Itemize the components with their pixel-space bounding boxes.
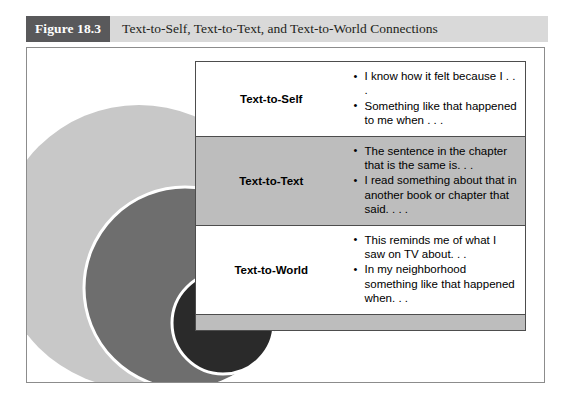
table-row: Text-to-Self I know how it felt because … xyxy=(196,62,526,137)
table-footer-band xyxy=(196,314,526,330)
connection-examples-cell: I know how it felt because I . . . Somet… xyxy=(347,62,526,137)
bullet-list: The sentence in the chapter that is the … xyxy=(351,144,518,217)
figure-header-bar: Figure 18.3 Text-to-Self, Text-to-Text, … xyxy=(26,16,548,42)
connection-type-label: Text-to-World xyxy=(196,225,347,314)
table-row: Text-to-World This reminds me of what I … xyxy=(196,225,526,314)
figure-title: Text-to-Self, Text-to-Text, and Text-to-… xyxy=(110,16,438,42)
list-item: This reminds me of what I saw on TV abou… xyxy=(365,233,518,262)
list-item: I read something about that in another b… xyxy=(365,173,518,216)
list-item: In my neighborhood something like that h… xyxy=(365,262,518,305)
connection-examples-cell: This reminds me of what I saw on TV abou… xyxy=(347,225,526,314)
list-item: Something like that happened to me when … xyxy=(365,99,518,128)
table-row: Text-to-Text The sentence in the chapter… xyxy=(196,136,526,225)
connection-type-label: Text-to-Text xyxy=(196,136,347,225)
list-item: The sentence in the chapter that is the … xyxy=(365,144,518,173)
figure-body-frame: Text-to-Self I know how it felt because … xyxy=(26,47,545,383)
figure-root: Figure 18.3 Text-to-Self, Text-to-Text, … xyxy=(0,0,567,402)
figure-number-label: Figure 18.3 xyxy=(26,16,110,42)
list-item: I know how it felt because I . . . xyxy=(365,69,518,98)
table-footer-band-cell xyxy=(196,314,526,330)
connection-type-label: Text-to-Self xyxy=(196,62,347,137)
connections-table: Text-to-Self I know how it felt because … xyxy=(195,61,526,331)
connection-examples-cell: The sentence in the chapter that is the … xyxy=(347,136,526,225)
bullet-list: I know how it felt because I . . . Somet… xyxy=(351,69,518,128)
connections-table-body: Text-to-Self I know how it felt because … xyxy=(196,62,526,331)
bullet-list: This reminds me of what I saw on TV abou… xyxy=(351,233,518,306)
